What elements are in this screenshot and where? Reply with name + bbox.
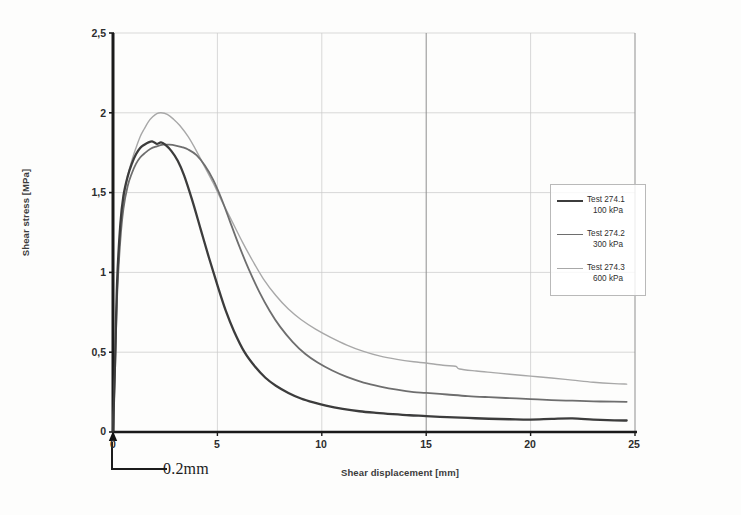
legend-sublabel-test-274-2: 300 kPa	[587, 239, 645, 250]
x-tick-label-2: 10	[307, 438, 335, 450]
y-tick-label-3: 1	[72, 266, 106, 278]
legend: Test 274.1 100 kPa Test 274.2 300 kPa Te…	[550, 184, 646, 296]
legend-swatch-test-274-3	[557, 268, 583, 269]
figure-canvas: 2,5 2 1,5 1 0,5 0 0 5 10 15 20 25 Shear …	[0, 0, 741, 515]
y-tick-label-1: 2	[72, 107, 106, 119]
x-tick-label-3: 15	[412, 438, 440, 450]
scale-bar-label: 0.2mm	[163, 460, 209, 478]
legend-swatch-test-274-2	[557, 234, 583, 235]
y-tick-label-2: 1,5	[72, 186, 106, 198]
legend-sublabel-test-274-3: 600 kPa	[587, 273, 645, 284]
y-tick-label-4: 0,5	[72, 346, 106, 358]
legend-label-test-274-1: Test 274.1	[587, 194, 645, 205]
legend-item-test-274-2: Test 274.2 300 kPa	[551, 228, 645, 262]
x-axis-title: Shear displacement [mm]	[300, 467, 500, 478]
legend-swatch-test-274-1	[557, 200, 583, 202]
legend-label-test-274-2: Test 274.2	[587, 228, 645, 239]
x-tick-label-4: 20	[516, 438, 544, 450]
x-tick-label-0: 0	[99, 438, 127, 450]
y-axis-title: Shear stress [MPa]	[20, 148, 31, 278]
y-tick-label-5: 0	[72, 425, 106, 437]
legend-item-test-274-3: Test 274.3 600 kPa	[551, 262, 645, 296]
legend-sublabel-test-274-1: 100 kPa	[587, 205, 645, 216]
legend-item-test-274-1: Test 274.1 100 kPa	[551, 194, 645, 228]
y-tick-label-0: 2,5	[72, 27, 106, 39]
x-tick-label-1: 5	[203, 438, 231, 450]
legend-label-test-274-3: Test 274.3	[587, 262, 645, 273]
x-tick-label-5: 25	[620, 438, 648, 450]
